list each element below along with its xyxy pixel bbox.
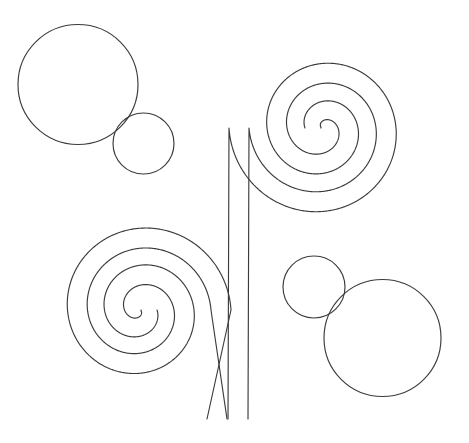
drawing-canvas: [0, 0, 469, 443]
canvas-background: [0, 0, 469, 443]
line-art-svg: [0, 0, 469, 443]
